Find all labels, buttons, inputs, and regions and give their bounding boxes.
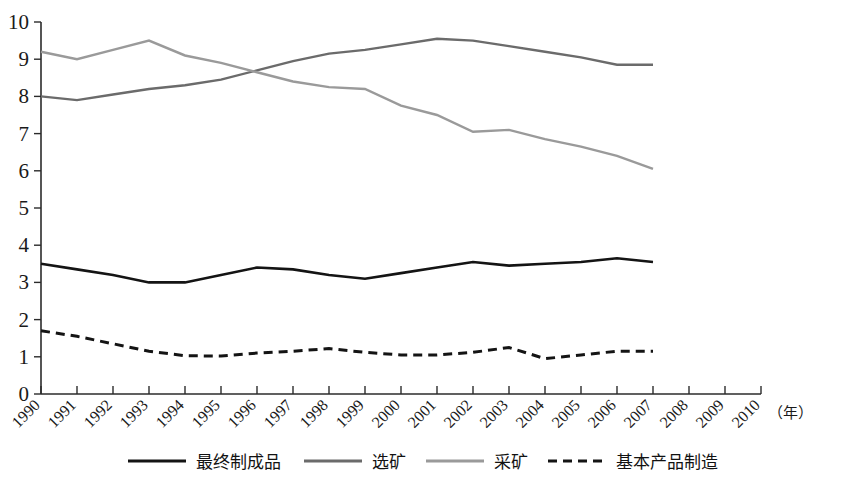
- series-lines: [41, 39, 653, 359]
- y-tick-label: 10: [8, 10, 29, 34]
- series-line-1: [41, 39, 653, 100]
- x-tick-label: 2005: [548, 396, 583, 431]
- series-line-0: [41, 258, 653, 282]
- line-chart: 012345678910 199019911992199319941995199…: [0, 0, 866, 478]
- y-axis-ticks: [34, 22, 41, 394]
- x-tick-label: 2002: [440, 396, 475, 431]
- y-tick-label: 7: [19, 122, 30, 146]
- chart-legend: 最终制成品选矿采矿基本产品制造: [128, 453, 718, 472]
- x-tick-label: 2006: [584, 396, 619, 431]
- x-tick-label: 1999: [332, 396, 367, 431]
- chart-canvas: 012345678910 199019911992199319941995199…: [0, 0, 866, 478]
- y-tick-label: 3: [19, 270, 30, 294]
- y-tick-label: 4: [19, 233, 30, 257]
- x-tick-label: 1997: [260, 396, 295, 431]
- x-tick-label: 2001: [404, 396, 439, 431]
- x-tick-label: 2008: [656, 396, 691, 431]
- legend-label-3: 基本产品制造: [616, 453, 718, 472]
- x-tick-label: 1992: [80, 396, 115, 431]
- x-tick-label: 2004: [512, 396, 547, 431]
- legend-label-1: 选矿: [372, 453, 406, 472]
- x-tick-label: 2003: [476, 396, 511, 431]
- x-tick-label: 2007: [620, 396, 655, 431]
- x-axis-labels: 1990199119921993199419951996199719981999…: [8, 396, 763, 431]
- y-tick-label: 2: [19, 308, 30, 332]
- x-axis-unit-label: （年）: [768, 404, 813, 421]
- y-tick-label: 1: [19, 345, 30, 369]
- series-line-2: [41, 41, 653, 169]
- x-tick-label: 1993: [116, 396, 151, 431]
- y-tick-label: 5: [19, 196, 30, 220]
- x-tick-label: 1996: [224, 396, 259, 431]
- x-tick-label: 1994: [152, 396, 187, 431]
- series-line-3: [41, 331, 653, 359]
- y-tick-label: 8: [19, 84, 30, 108]
- legend-label-0: 最终制成品: [196, 453, 281, 472]
- y-axis-labels: 012345678910: [8, 10, 30, 406]
- y-tick-label: 9: [19, 47, 30, 71]
- legend-label-2: 采矿: [494, 453, 528, 472]
- x-tick-label: 1998: [296, 396, 331, 431]
- x-tick-label: 1990: [8, 396, 43, 431]
- x-tick-label: 1991: [44, 396, 79, 431]
- x-tick-label: 2010: [728, 396, 763, 431]
- y-tick-label: 6: [19, 159, 30, 183]
- x-axis-ticks: [41, 386, 761, 394]
- x-tick-label: 1995: [188, 396, 223, 431]
- x-tick-label: 2009: [692, 396, 727, 431]
- x-tick-label: 2000: [368, 396, 403, 431]
